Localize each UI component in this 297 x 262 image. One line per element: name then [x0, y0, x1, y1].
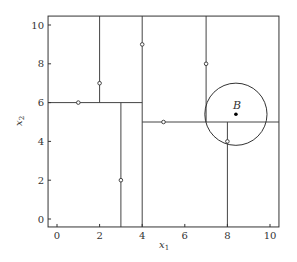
x-tick-label: 0 — [54, 230, 60, 241]
x-axis-label: x1 — [159, 239, 169, 252]
y-tick-label: 6 — [38, 97, 44, 108]
y-tick-label: 2 — [38, 175, 44, 186]
query-point-label: B — [232, 99, 241, 112]
data-point — [204, 62, 208, 66]
x-tick-label: 8 — [224, 230, 230, 241]
y-tick-label: 0 — [38, 214, 44, 225]
data-point — [119, 178, 123, 182]
query-point-b — [234, 112, 238, 116]
data-point — [140, 43, 144, 47]
y-tick-label: 10 — [31, 20, 44, 31]
data-point — [98, 81, 102, 85]
x-tick-label: 10 — [264, 230, 277, 241]
x-tick-label: 4 — [139, 230, 145, 241]
kd-tree-scatter-chart: B 0246810 0246810 x1 x2 — [0, 0, 297, 262]
y-tick-label: 8 — [38, 58, 44, 69]
x-tick-label: 6 — [182, 230, 188, 241]
x-tick-label: 2 — [96, 230, 102, 241]
data-point — [77, 101, 81, 105]
y-tick-label: 4 — [38, 136, 44, 147]
data-point — [226, 140, 230, 144]
y-axis-label: x2 — [13, 116, 26, 126]
data-point — [162, 120, 166, 124]
